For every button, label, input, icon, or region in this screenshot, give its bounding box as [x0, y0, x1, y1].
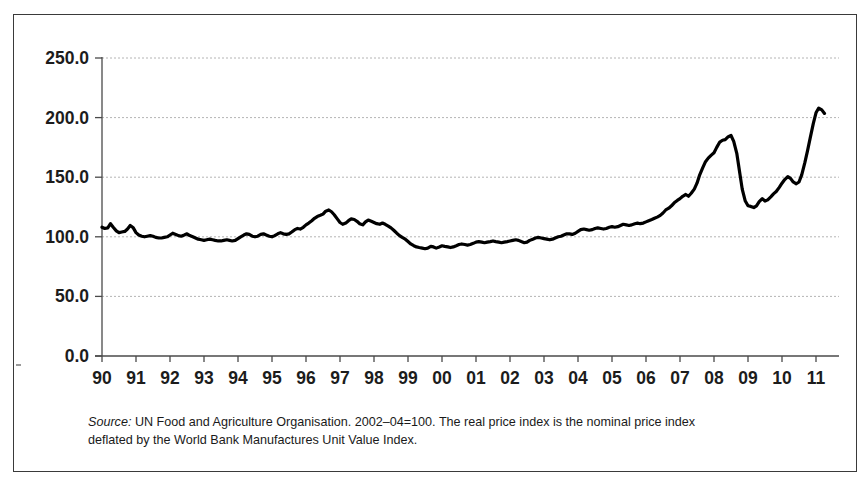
x-tick-label-93: 93 [194, 368, 214, 388]
data-series-group [102, 108, 825, 249]
x-tick-label-11: 11 [807, 368, 826, 388]
x-tick-label-06: 06 [636, 368, 656, 388]
x-tick-label-08: 08 [704, 368, 724, 388]
x-tick-label-01: 01 [466, 368, 486, 388]
x-tick-label-92: 92 [160, 368, 180, 388]
y-axis-group [95, 57, 102, 356]
y-tick-label-150.0: 150.0 [45, 167, 89, 187]
y-tick-label-50.0: 50.0 [55, 286, 89, 306]
series-line-0 [102, 108, 825, 249]
y-tick-label-100.0: 100.0 [45, 227, 89, 247]
gridlines-group [102, 58, 839, 296]
y-tick-label-200.0: 200.0 [45, 108, 89, 128]
source-label: Source: [88, 415, 131, 429]
x-tick-label-91: 91 [126, 368, 146, 388]
x-tick-label-02: 02 [500, 368, 520, 388]
x-tick-label-03: 03 [534, 368, 554, 388]
chart-figure-frame: 0.050.0100.0150.0200.0250.0 909192939495… [13, 14, 857, 472]
x-tick-label-96: 96 [296, 368, 316, 388]
x-tick-label-04: 04 [568, 368, 588, 388]
source-line-1: UN Food and Agriculture Organisation. 20… [131, 415, 583, 429]
x-tick-label-94: 94 [228, 368, 248, 388]
x-tick-label-90: 90 [92, 368, 112, 388]
x-tick-label-97: 97 [330, 368, 349, 388]
y-tick-label-250.0: 250.0 [45, 48, 89, 68]
chart-plot-area: 0.050.0100.0150.0200.0250.0 909192939495… [14, 15, 858, 473]
scan-speck-left [16, 364, 21, 366]
x-tick-label-99: 99 [398, 368, 418, 388]
y-tick-label-0.0: 0.0 [65, 346, 90, 366]
y-tick-labels-group: 0.050.0100.0150.0200.0250.0 [45, 48, 89, 366]
x-tick-label-07: 07 [670, 368, 689, 388]
source-note: Source: UN Food and Agriculture Organisa… [88, 413, 728, 450]
x-tick-label-10: 10 [772, 368, 792, 388]
x-tick-label-98: 98 [364, 368, 384, 388]
x-tick-label-95: 95 [262, 368, 282, 388]
x-tick-label-00: 00 [432, 368, 452, 388]
x-tick-labels-group: 9091929394959697989900010203040506070809… [92, 368, 825, 388]
x-axis-group [95, 356, 839, 362]
x-tick-label-09: 09 [738, 368, 758, 388]
x-tick-label-05: 05 [602, 368, 622, 388]
